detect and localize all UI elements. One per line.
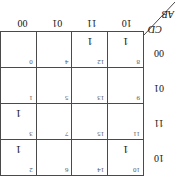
column-label: 00: [5, 15, 40, 31]
row-axis-labels: 10 11 01 00: [146, 36, 172, 176]
cell-index-label: 10: [133, 166, 140, 174]
cell-value: 1: [73, 36, 108, 48]
cell-index-label: 7: [65, 130, 69, 138]
kmap-cell[interactable]: 7: [36, 104, 72, 140]
kmap-cell[interactable]: 10 1: [108, 140, 144, 176]
axis-corner-header: CD AB: [144, 2, 175, 35]
kmap-cell[interactable]: 6: [36, 140, 72, 176]
row-label: 11: [146, 106, 172, 141]
cell-index-label: 6: [65, 166, 69, 174]
cell-index-label: 8: [137, 58, 141, 66]
kmap-cell[interactable]: 0: [1, 32, 37, 68]
column-axis-labels: 10 11 01 00: [5, 15, 144, 31]
col-variable-label: CD: [148, 24, 162, 35]
cell-index-label: 5: [65, 94, 69, 102]
kmap-table: 10 1 14 6 2 1: [0, 31, 144, 176]
cell-index-label: 14: [97, 166, 104, 174]
kmap-cell[interactable]: 4: [36, 32, 72, 68]
cell-index-label: 2: [29, 166, 33, 174]
cell-value: 1: [1, 144, 36, 156]
kmap-cell[interactable]: 1: [1, 68, 37, 104]
kmap-cell[interactable]: 9: [108, 68, 144, 104]
row-label: 01: [146, 71, 172, 106]
cell-value: 1: [1, 108, 36, 120]
cell-value: 1: [108, 36, 143, 48]
kmap-cell[interactable]: 2 1: [1, 140, 37, 176]
cell-value: 1: [108, 144, 143, 156]
kmap-cell[interactable]: 11: [108, 104, 144, 140]
cell-index-label: 0: [29, 58, 33, 66]
table-row: 10 1 14 6 2 1: [1, 140, 144, 176]
karnaugh-map-figure: 10 1 14 6 2 1: [0, 0, 177, 181]
row-variable-label: AB: [162, 9, 174, 20]
kmap-cell[interactable]: 13: [72, 68, 108, 104]
table-row: 9 13 5 1: [1, 68, 144, 104]
kmap-cell[interactable]: 12 1: [72, 32, 108, 68]
table-row: 11 15 7 3 1: [1, 104, 144, 140]
cell-index-label: 1: [29, 94, 33, 102]
table-row: 8 1 12 1 4 0: [1, 32, 144, 68]
kmap-cell[interactable]: 14: [72, 140, 108, 176]
cell-index-label: 9: [137, 94, 141, 102]
cell-index-label: 3: [29, 130, 33, 138]
column-label: 10: [109, 15, 144, 31]
kmap-grid: 10 1 14 6 2 1: [5, 36, 144, 176]
kmap-cell[interactable]: 5: [36, 68, 72, 104]
column-label: 11: [75, 15, 110, 31]
cell-index-label: 12: [97, 58, 104, 66]
row-label: 10: [146, 141, 172, 176]
row-label: 00: [146, 36, 172, 71]
kmap-cell[interactable]: 8 1: [108, 32, 144, 68]
kmap-cell[interactable]: 3 1: [1, 104, 37, 140]
cell-index-label: 13: [97, 94, 104, 102]
cell-index-label: 15: [97, 130, 104, 138]
cell-index-label: 11: [133, 130, 140, 138]
column-label: 01: [40, 15, 75, 31]
cell-index-label: 4: [65, 58, 69, 66]
kmap-cell[interactable]: 15: [72, 104, 108, 140]
